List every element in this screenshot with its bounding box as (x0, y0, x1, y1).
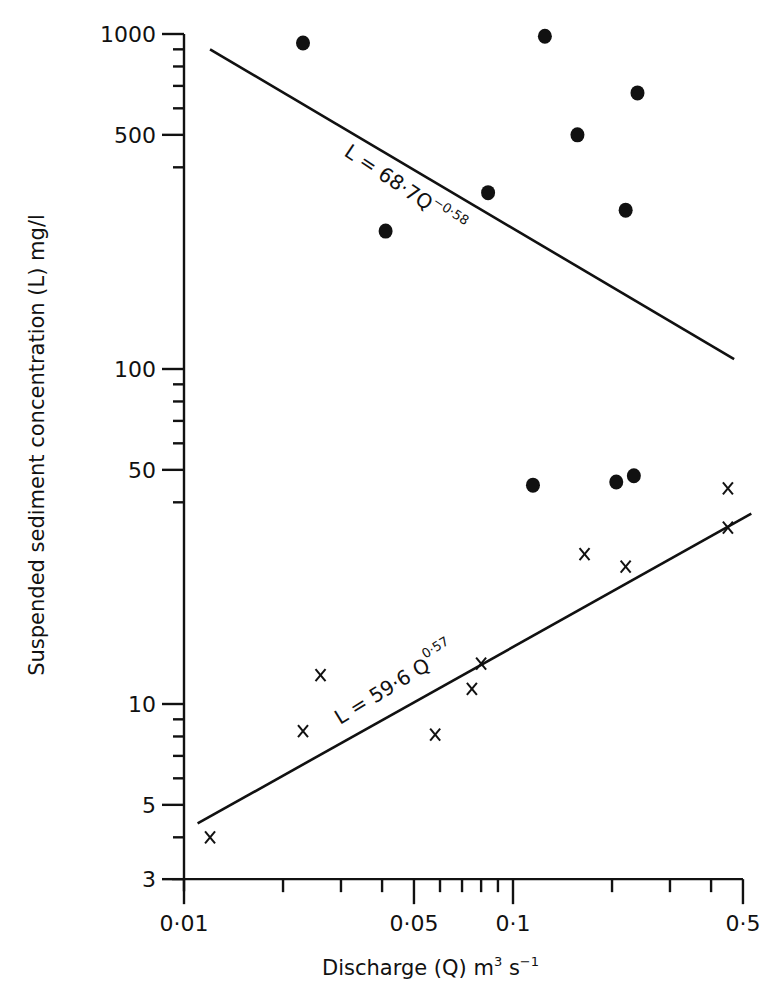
y-tick-label: 50 (128, 458, 156, 483)
data-points (205, 29, 733, 844)
y-tick-label: 100 (114, 357, 156, 382)
scatter-chart: 10005001005010530·010·050·10·5 L = 68·7Q… (0, 0, 781, 999)
x-tick-label: 0·1 (496, 911, 531, 936)
dot-marker (627, 468, 641, 483)
y-tick-label: 3 (142, 867, 156, 892)
y-tick-label: 10 (128, 692, 156, 717)
dot-marker (619, 203, 633, 218)
y-axis-title: Suspended sediment concentration (L) mg/… (25, 214, 49, 676)
upper-fit-line (210, 49, 734, 359)
x-axis-title: Discharge (Q) m3 s−1 (322, 954, 539, 980)
cross-marker (430, 729, 440, 741)
y-tick-label: 500 (114, 123, 156, 148)
dot-marker (526, 478, 540, 493)
dot-marker (538, 29, 552, 44)
regression-lines (198, 49, 752, 823)
upper-equation-label: L = 68·7Q−0·58 (340, 138, 472, 238)
dot-marker (630, 85, 644, 100)
cross-marker (298, 725, 308, 737)
cross-marker (316, 669, 326, 681)
dot-marker (481, 185, 495, 200)
axes: 10005001005010530·010·050·10·5 (100, 22, 760, 936)
dot-marker (296, 36, 310, 51)
cross-marker (723, 482, 733, 494)
y-tick-label: 5 (142, 793, 156, 818)
lower-fit-line (198, 514, 752, 824)
x-tick-label: 0·5 (725, 911, 760, 936)
x-tick-label: 0·05 (389, 911, 438, 936)
cross-marker (580, 548, 590, 560)
dot-marker (609, 474, 623, 489)
dot-marker (570, 127, 584, 142)
x-tick-label: 0·01 (160, 911, 209, 936)
cross-marker (205, 831, 215, 843)
dot-marker (379, 224, 393, 239)
cross-marker (621, 561, 631, 573)
cross-marker (467, 683, 477, 695)
y-tick-label: 1000 (100, 22, 156, 47)
